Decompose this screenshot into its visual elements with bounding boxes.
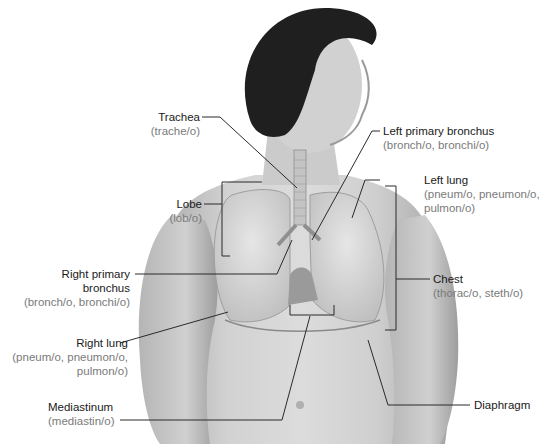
label-diaphragm: Diaphragm	[474, 398, 530, 412]
left-primary-bronchus-term: Left primary bronchus	[383, 124, 494, 138]
right-lung-root-1: (pneum/o, pneumon/o,	[0, 350, 128, 364]
label-right-lung: Right lung (pneum/o, pneumon/o, pulmon/o…	[0, 336, 128, 378]
left-primary-bronchus-root: (bronch/o, bronchi/o)	[383, 138, 494, 152]
label-left-primary-bronchus: Left primary bronchus (bronch/o, bronchi…	[383, 124, 494, 152]
body-silhouette	[139, 8, 458, 444]
chest-term: Chest	[433, 272, 523, 286]
chest-root: (thorac/o, steth/o)	[433, 286, 523, 300]
label-trachea: Trachea (trache/o)	[138, 110, 200, 138]
left-lung-root-1: (pneum/o, pneumon/o,	[424, 187, 540, 201]
mediastinum-root: (mediastin/o)	[48, 414, 114, 428]
label-lobe: Lobe (lob/o)	[140, 197, 202, 225]
left-lung-term: Left lung	[424, 173, 540, 187]
diaphragm-term: Diaphragm	[474, 398, 530, 412]
anatomy-figure: Trachea (trache/o) Left primary bronchus…	[0, 0, 550, 444]
trachea-root: (trache/o)	[138, 124, 200, 138]
right-lung-root-2: pulmon/o)	[0, 364, 128, 378]
label-left-lung: Left lung (pneum/o, pneumon/o, pulmon/o)	[424, 173, 540, 215]
label-chest: Chest (thorac/o, steth/o)	[433, 272, 523, 300]
label-mediastinum: Mediastinum (mediastin/o)	[48, 400, 114, 428]
mediastinum-term: Mediastinum	[48, 400, 114, 414]
right-primary-bronchus-term-2: bronchus	[0, 281, 130, 295]
left-lung-root-2: pulmon/o)	[424, 201, 540, 215]
trachea-term: Trachea	[138, 110, 200, 124]
right-lung-term: Right lung	[0, 336, 128, 350]
right-primary-bronchus-term-1: Right primary	[0, 267, 130, 281]
lobe-term: Lobe	[140, 197, 202, 211]
right-primary-bronchus-root: (bronch/o, bronchi/o)	[0, 295, 130, 309]
label-right-primary-bronchus: Right primary bronchus (bronch/o, bronch…	[0, 267, 130, 309]
lobe-root: (lob/o)	[140, 211, 202, 225]
